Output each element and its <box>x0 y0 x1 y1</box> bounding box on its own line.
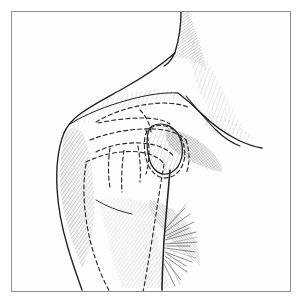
shoulder-anatomy-illustration <box>0 0 302 303</box>
figure-root: Shoulder surface anatomy with underlying… <box>0 0 302 303</box>
bicipital-groove-dashed <box>122 150 124 192</box>
chest-wall-stipple <box>198 104 260 148</box>
greater-tuberosity-dashed <box>138 146 140 182</box>
